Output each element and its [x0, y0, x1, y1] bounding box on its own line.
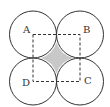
label-c: C	[84, 75, 92, 86]
label-a: A	[22, 24, 31, 35]
label-d: D	[22, 77, 30, 88]
label-b: B	[83, 24, 90, 35]
circles-square-diagram: A B C D	[0, 0, 110, 107]
shaded-region	[41, 43, 74, 74]
